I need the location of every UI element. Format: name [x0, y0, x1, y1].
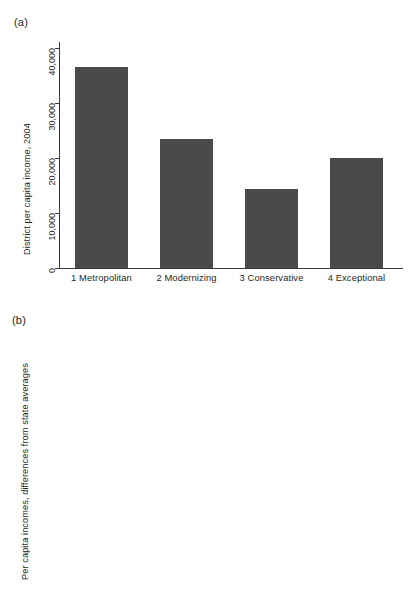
panel-a-cat-3: 4 Exceptional [314, 272, 399, 283]
bar-a-metropolitan [75, 67, 128, 268]
bar-a-exceptional [330, 158, 383, 268]
panel-a-letter: (a) [14, 16, 28, 28]
panel-a-tick-label-30000: 30,000 [46, 103, 58, 131]
bar-a-conservative [245, 189, 298, 268]
panel-a-tick-label-10000: 10,000 [46, 213, 58, 241]
panel-a-category-labels: 1 Metropolitan 2 Modernizing 3 Conservat… [59, 272, 399, 283]
panel-b-letter: (b) [12, 314, 26, 326]
panel-a-cat-0: 1 Metropolitan [59, 272, 144, 283]
panel-a-y-axis-title: District per capita income, 2004 [22, 123, 32, 255]
panel-b-y-axis-title: Per capita incomes, differences from sta… [20, 363, 30, 580]
panel-a-cat-1: 2 Modernizing [144, 272, 229, 283]
panel-a-cat-2: 3 Conservative [229, 272, 314, 283]
panel-a-y-axis-line [59, 42, 60, 268]
panel-b: (b) Per capita incomes, differences from… [0, 300, 408, 603]
panel-a-x-axis-line [59, 268, 403, 269]
panel-a-tick-label-0: 0 [46, 268, 58, 273]
figure-root: (a) District per capita income, 2004 0 1… [0, 0, 408, 603]
panel-a-tick-label-40000: 40,000 [46, 48, 58, 76]
panel-a: (a) District per capita income, 2004 0 1… [0, 0, 408, 300]
panel-a-tick-label-20000: 20,000 [46, 158, 58, 186]
bar-a-modernizing [160, 139, 213, 268]
panel-a-plot-area: 0 10,000 20,000 30,000 40,000 [59, 42, 399, 268]
